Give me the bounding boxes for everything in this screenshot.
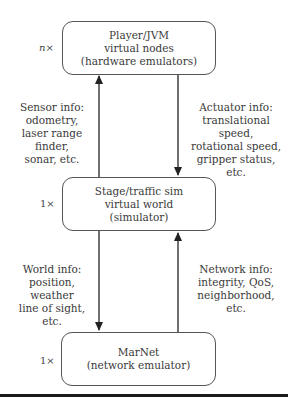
node-player-line-1: Player/JVM	[109, 29, 169, 42]
actuator-info-line: translational speed,	[186, 114, 286, 140]
label-world-info: World info: position, weather line of si…	[8, 263, 96, 328]
world-info-line: position, weather	[8, 276, 96, 302]
network-info-line: neighborhood, etc.	[186, 289, 286, 315]
actuator-info-title: Actuator info:	[186, 101, 286, 114]
node-stage-sim: Stage/traffic sim virtual world (simulat…	[62, 177, 216, 231]
bottom-divider	[0, 394, 288, 397]
sensor-info-line: sonar, etc.	[8, 153, 96, 166]
sensor-info-line: laser range finder,	[8, 127, 96, 153]
node-stage-line-3: (simulator)	[110, 211, 169, 224]
label-network-info: Network info: integrity, QoS, neighborho…	[186, 263, 286, 315]
actuator-info-line: rotational speed,	[186, 140, 286, 153]
node-player-line-2: virtual nodes	[104, 42, 174, 55]
node-marnet-line-2: (network emulator)	[87, 359, 191, 372]
node-player-jvm: Player/JVM virtual nodes (hardware emula…	[62, 21, 216, 75]
world-info-line: line of sight, etc.	[8, 302, 96, 328]
node-stage-line-1: Stage/traffic sim	[95, 185, 183, 198]
label-actuator-info: Actuator info: translational speed, rota…	[186, 101, 286, 179]
multiplicity-marnet: 1×	[40, 355, 55, 366]
sensor-info-title: Sensor info:	[8, 101, 96, 114]
node-player-line-3: (hardware emulators)	[81, 55, 197, 68]
node-stage-line-2: virtual world	[105, 198, 174, 211]
actuator-info-line: gripper status, etc.	[186, 153, 286, 179]
world-info-title: World info:	[8, 263, 96, 276]
multiplicity-stage: 1×	[40, 198, 55, 209]
node-marnet: MarNet (network emulator)	[61, 332, 216, 386]
network-info-line: integrity, QoS,	[186, 276, 286, 289]
multiplicity-player: n×	[39, 42, 54, 53]
label-sensor-info: Sensor info: odometry, laser range finde…	[8, 101, 96, 166]
network-info-title: Network info:	[186, 263, 286, 276]
node-marnet-line-1: MarNet	[118, 346, 160, 359]
sensor-info-line: odometry,	[8, 114, 96, 127]
